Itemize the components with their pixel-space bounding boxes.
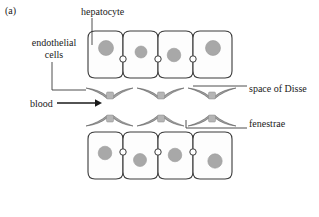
figure-panel-a: (a) hepatocyte endothelial cells blood s… — [0, 0, 319, 217]
endothelial-nucleus — [158, 92, 165, 99]
endothelial-nucleus — [209, 115, 216, 122]
hepatocyte-nucleus — [135, 46, 147, 58]
bile-canaliculus — [155, 149, 161, 155]
endothelial-nucleus — [107, 115, 114, 122]
lower-endothelial-row — [86, 115, 236, 126]
hepatocyte-nucleus — [99, 41, 114, 56]
endothelial-nucleus — [107, 92, 114, 99]
bile-canaliculus — [120, 56, 126, 62]
label-fenestrae: fenestrae — [249, 118, 285, 129]
endothelial-nucleus — [209, 92, 216, 99]
bile-canaliculus — [155, 56, 161, 62]
label-hepatocyte: hepatocyte — [81, 6, 124, 17]
endothelial-leader-line — [52, 62, 86, 90]
lower-hepatocyte-row — [88, 132, 232, 179]
upper-hepatocyte-row — [88, 31, 232, 78]
label-endothelial-cells: endothelial cells — [21, 37, 87, 61]
endothelial-nucleus — [158, 115, 165, 122]
hepatocyte-nucleus — [98, 146, 112, 160]
blood-flow-arrow — [57, 99, 102, 107]
label-blood: blood — [30, 98, 53, 109]
panel-label: (a) — [5, 5, 16, 16]
upper-endothelial-row — [86, 88, 236, 99]
bile-canaliculus — [190, 149, 196, 155]
hepatocyte-nucleus — [167, 48, 181, 62]
hepatocyte-nucleus — [206, 41, 221, 56]
hepatocyte-nucleus — [134, 154, 147, 167]
hepatocyte-nucleus — [168, 148, 182, 162]
bile-canaliculus — [190, 56, 196, 62]
bile-canaliculus — [120, 149, 126, 155]
label-endothelial-cells-line1: endothelial — [32, 37, 76, 48]
hepatocyte-nucleus — [208, 154, 222, 168]
label-endothelial-cells-line2: cells — [45, 49, 63, 60]
label-space-of-disse: space of Disse — [249, 83, 307, 94]
